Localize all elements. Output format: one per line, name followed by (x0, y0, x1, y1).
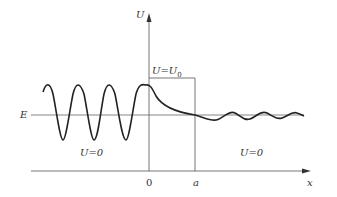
energy-label: E (20, 110, 27, 120)
wavefunction-curve (43, 85, 304, 140)
barrier-label: U=U0 (152, 66, 182, 79)
y-axis-label: U (136, 10, 144, 20)
potential-barrier-diagram: U U=U0 E U=0 U=0 0 a x (0, 0, 337, 197)
x-axis-label: x (307, 178, 313, 188)
barrier-label-sub: 0 (177, 71, 181, 79)
region-right-label: U=0 (240, 148, 263, 158)
x-axis-arrow-icon (302, 169, 311, 174)
diagram-canvas (0, 0, 337, 197)
tick-origin-label: 0 (146, 178, 152, 188)
barrier-outline (149, 78, 195, 171)
tick-width-label: a (193, 178, 199, 188)
region-left-label: U=0 (80, 148, 103, 158)
barrier-label-main: U=U (152, 65, 177, 76)
y-axis-arrow-icon (147, 13, 152, 22)
